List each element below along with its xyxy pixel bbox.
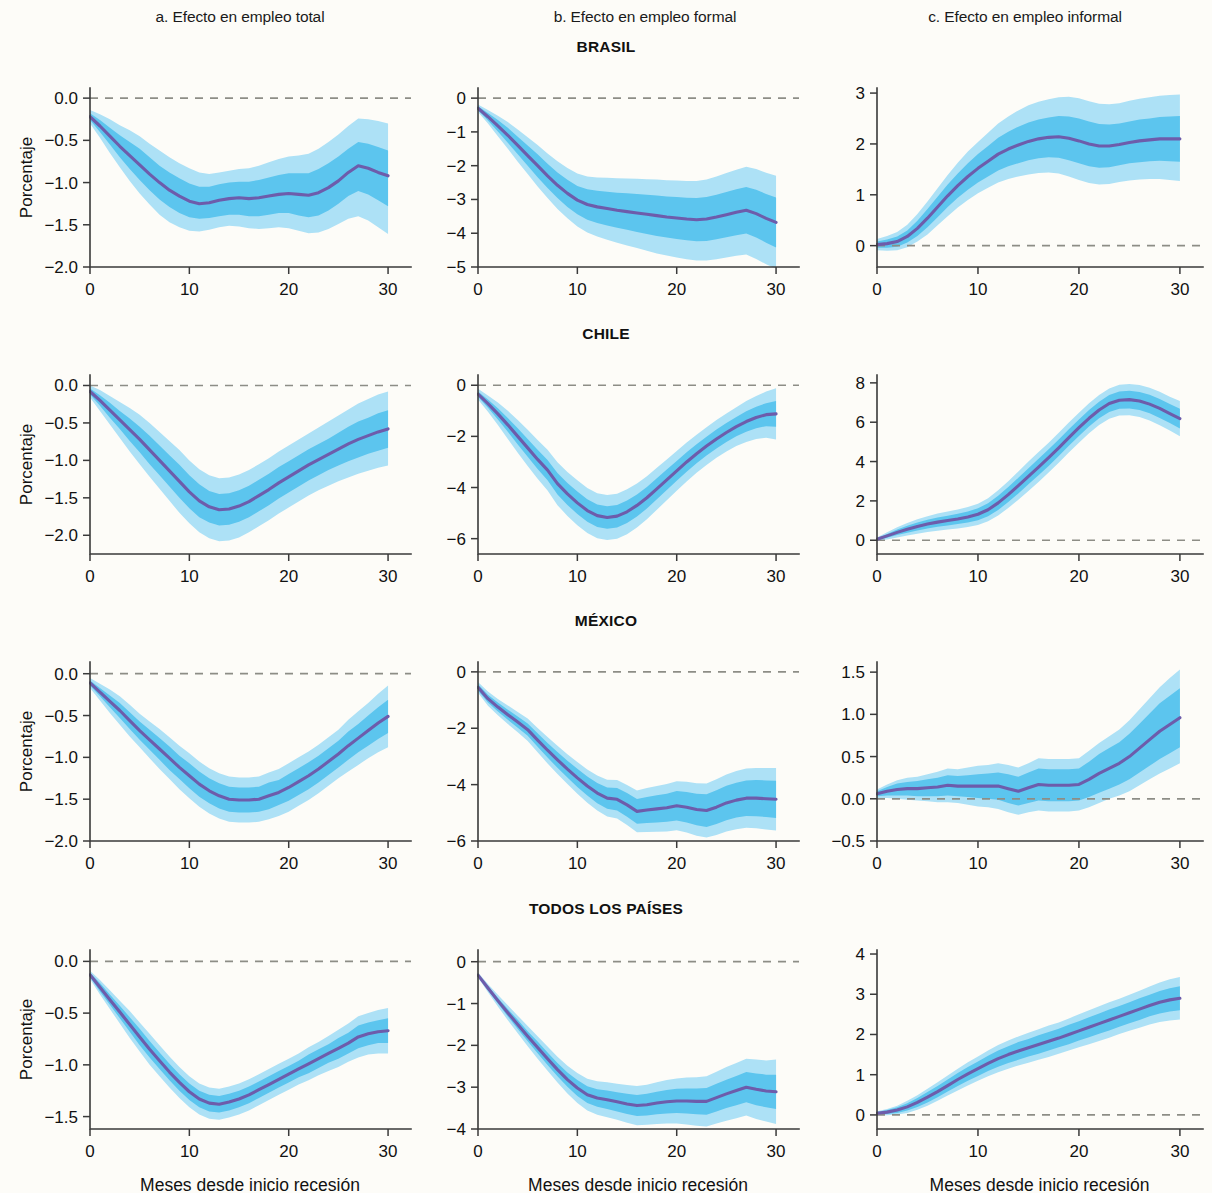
- x-tick-label: 0: [85, 1142, 94, 1161]
- y-tick-label: −2: [447, 1036, 466, 1055]
- y-axis-title: Porcentaje: [17, 999, 36, 1080]
- x-tick-label: 30: [767, 280, 786, 299]
- x-tick-label: 0: [872, 854, 881, 873]
- x-tick-label: 0: [85, 567, 94, 586]
- panel-brasil-total: 0.0−0.5−1.0−1.5−2.00102030Porcentaje: [12, 72, 416, 329]
- panel-chile-informal: 864200102030: [799, 359, 1208, 616]
- panel-mexico-informal: 1.51.00.50.0−0.50102030: [799, 646, 1208, 903]
- y-tick-label: −0.5: [44, 414, 78, 433]
- x-tick-label: 20: [667, 567, 686, 586]
- x-tick-label: 10: [969, 567, 988, 586]
- y-tick-label: −6: [447, 530, 466, 549]
- y-tick-label: −4: [447, 776, 466, 795]
- confidence-band-68: [90, 680, 388, 812]
- column-title-a: a. Efecto en empleo total: [60, 8, 420, 26]
- y-tick-label: 0: [856, 237, 865, 256]
- y-axis-title: Porcentaje: [17, 711, 36, 792]
- panel-chile-formal: 0−2−4−60102030: [400, 359, 804, 616]
- y-tick-label: −1.0: [44, 748, 78, 767]
- panel-todos-total: 0.0−0.5−1.0−1.50102030PorcentajeMeses de…: [12, 934, 416, 1191]
- y-tick-label: 0: [457, 89, 466, 108]
- x-tick-label: 30: [379, 1142, 398, 1161]
- x-tick-label: 20: [279, 854, 298, 873]
- x-tick-label: 0: [85, 280, 94, 299]
- y-tick-label: 1: [856, 186, 865, 205]
- confidence-band-68: [877, 116, 1180, 248]
- x-tick-label: 20: [667, 280, 686, 299]
- y-tick-label: −3: [447, 190, 466, 209]
- panel-mexico-total: 0.0−0.5−1.0−1.5−2.00102030Porcentaje: [12, 646, 416, 903]
- y-tick-label: −1.5: [44, 1108, 78, 1127]
- y-tick-label: 0: [457, 953, 466, 972]
- y-axis-title: Porcentaje: [17, 137, 36, 218]
- y-tick-label: 0.0: [54, 376, 78, 395]
- panel-todos-formal: 0−1−2−3−40102030Meses desde inicio reces…: [400, 934, 804, 1191]
- x-axis-title: Meses desde inicio recesión: [140, 1175, 360, 1191]
- y-tick-label: −6: [447, 832, 466, 851]
- y-tick-label: −4: [447, 479, 466, 498]
- x-tick-label: 10: [969, 854, 988, 873]
- panel-todos-informal: 432100102030Meses desde inicio recesión: [799, 934, 1208, 1191]
- panel-brasil-formal: 0−1−2−3−4−50102030: [400, 72, 804, 329]
- y-tick-label: −1.5: [44, 790, 78, 809]
- x-tick-label: 30: [767, 1142, 786, 1161]
- x-tick-label: 10: [568, 854, 587, 873]
- y-tick-label: 0.0: [54, 665, 78, 684]
- y-tick-label: −4: [447, 1120, 466, 1139]
- x-tick-label: 0: [473, 280, 482, 299]
- y-tick-label: 0.0: [54, 89, 78, 108]
- x-tick-label: 30: [767, 854, 786, 873]
- y-tick-label: −2.0: [44, 526, 78, 545]
- y-tick-label: 4: [856, 945, 865, 964]
- y-tick-label: −0.5: [44, 1004, 78, 1023]
- confidence-band-68: [877, 986, 1180, 1114]
- y-tick-label: 0: [457, 376, 466, 395]
- y-tick-label: −1.5: [44, 489, 78, 508]
- y-tick-label: 3: [856, 985, 865, 1004]
- x-axis-title: Meses desde inicio recesión: [528, 1175, 748, 1191]
- y-tick-label: −1.0: [44, 1056, 78, 1075]
- x-tick-label: 20: [1069, 280, 1088, 299]
- x-tick-label: 10: [568, 567, 587, 586]
- y-tick-label: 0: [457, 663, 466, 682]
- y-tick-label: 8: [856, 374, 865, 393]
- x-tick-label: 0: [473, 567, 482, 586]
- panel-brasil-informal: 32100102030: [799, 72, 1208, 329]
- x-tick-label: 20: [667, 1142, 686, 1161]
- y-tick-label: 2: [856, 1025, 865, 1044]
- x-tick-label: 10: [180, 280, 199, 299]
- x-axis-title: Meses desde inicio recesión: [930, 1175, 1150, 1191]
- x-tick-label: 30: [379, 854, 398, 873]
- x-tick-label: 30: [1170, 567, 1189, 586]
- x-tick-label: 20: [279, 280, 298, 299]
- column-title-b: b. Efecto en empleo formal: [450, 8, 840, 26]
- y-tick-label: −3: [447, 1078, 466, 1097]
- x-tick-label: 10: [969, 280, 988, 299]
- x-tick-label: 30: [1170, 1142, 1189, 1161]
- y-tick-label: −0.5: [831, 832, 865, 851]
- y-tick-label: −1: [447, 995, 466, 1014]
- x-tick-label: 20: [667, 854, 686, 873]
- row-title-brasil: BRASIL: [0, 38, 1212, 56]
- y-tick-label: 0.0: [841, 790, 865, 809]
- x-tick-label: 20: [1069, 567, 1088, 586]
- x-tick-label: 30: [1170, 854, 1189, 873]
- y-tick-label: 3: [856, 84, 865, 103]
- y-tick-label: 2: [856, 135, 865, 154]
- y-tick-label: 0.5: [841, 748, 865, 767]
- x-tick-label: 10: [180, 567, 199, 586]
- y-tick-label: −2: [447, 157, 466, 176]
- y-tick-label: −2.0: [44, 832, 78, 851]
- y-tick-label: −2: [447, 427, 466, 446]
- x-tick-label: 10: [568, 280, 587, 299]
- y-tick-label: −1.5: [44, 216, 78, 235]
- figure-multi-panel-chart: a. Efecto en empleo total b. Efecto en e…: [0, 0, 1212, 1193]
- x-tick-label: 0: [872, 567, 881, 586]
- x-tick-label: 20: [1069, 1142, 1088, 1161]
- x-tick-label: 20: [1069, 854, 1088, 873]
- panel-mexico-formal: 0−2−4−60102030: [400, 646, 804, 903]
- x-tick-label: 30: [379, 567, 398, 586]
- column-title-c: c. Efecto en empleo informal: [845, 8, 1205, 26]
- y-tick-label: −1.0: [44, 174, 78, 193]
- x-tick-label: 20: [279, 567, 298, 586]
